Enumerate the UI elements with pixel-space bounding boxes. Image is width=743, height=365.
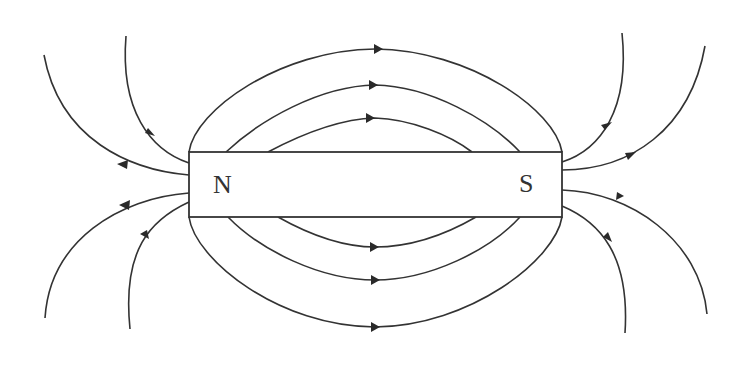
field-line-bottom-outer	[189, 217, 562, 327]
arrow-icon-bottom-middle	[371, 275, 380, 285]
bar-magnet-field-diagram: N S	[0, 0, 743, 365]
arrow-icon-north-upper-outer	[117, 160, 128, 169]
arrow-icon-top-outer	[374, 44, 383, 54]
arrow-icon-top-inner	[366, 113, 375, 123]
field-line-bottom-inner	[278, 217, 476, 247]
south-pole-label: S	[519, 169, 533, 198]
north-pole-label: N	[213, 170, 232, 199]
bar-magnet	[189, 152, 562, 217]
arrow-icon-bottom-outer	[371, 322, 380, 332]
field-line-top-inner	[268, 118, 472, 152]
field-line-north-lower-outer	[45, 193, 189, 318]
field-line-north-upper-inner	[125, 36, 189, 163]
field-line-north-lower-inner	[129, 202, 189, 329]
arrow-icon-south-lower-outer	[616, 192, 624, 200]
arrow-icon-south-lower-inner	[603, 232, 612, 242]
arrow-icon-bottom-inner	[370, 242, 379, 252]
arrow-icon-top-middle	[369, 80, 378, 90]
field-line-south-lower-inner	[562, 206, 626, 333]
arrow-icon-north-upper-inner	[145, 128, 155, 136]
arrow-icon-south-upper-inner	[601, 122, 612, 130]
field-line-south-lower-outer	[562, 190, 707, 314]
field-line-south-upper-inner	[562, 33, 623, 162]
arrow-icon-south-upper-outer	[625, 152, 636, 160]
field-line-north-upper-outer	[44, 55, 189, 175]
